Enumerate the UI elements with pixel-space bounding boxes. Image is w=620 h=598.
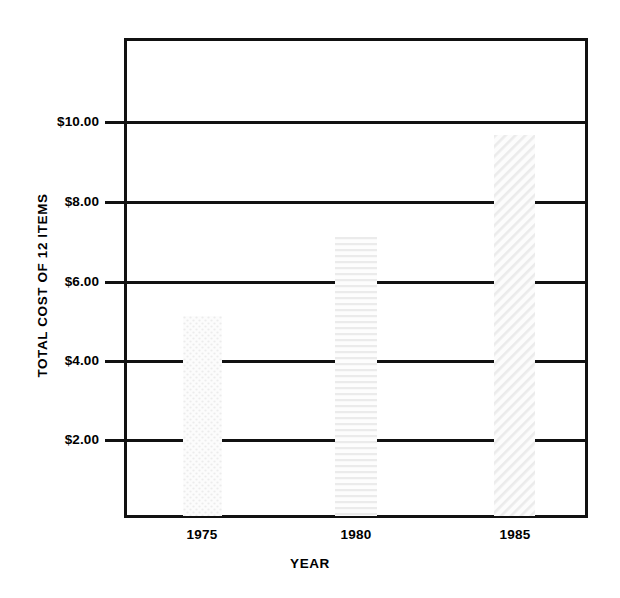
gridline-10 [124,121,588,124]
ytick-mark-4 [105,360,127,363]
bar-1985 [494,135,535,516]
bar-1975 [183,316,222,516]
ytick-mark-6 [105,281,127,284]
ytick-label-2: $2.00 [19,433,99,447]
ytick-mark-10 [105,121,127,124]
ytick-label-10: $10.00 [19,115,99,129]
bar-1975-fill [183,316,222,516]
y-axis-title: TOTAL COST OF 12 ITEMS [35,156,50,416]
xtick-label-1980: 1980 [296,528,416,542]
ytick-mark-2 [105,439,127,442]
bar-1980-fill [335,237,377,516]
xtick-label-1985: 1985 [455,528,575,542]
bar-chart: $10.00 $8.00 $6.00 $4.00 $2.00 1975 1980… [0,0,620,598]
xtick-label-1975: 1975 [142,528,262,542]
ytick-label-4: $4.00 [19,354,99,368]
ytick-label-6: $6.00 [19,275,99,289]
x-axis-title: YEAR [0,556,620,571]
bar-1985-fill [494,135,535,516]
ytick-mark-8 [105,201,127,204]
bar-1980 [335,237,377,516]
ytick-label-8: $8.00 [19,195,99,209]
